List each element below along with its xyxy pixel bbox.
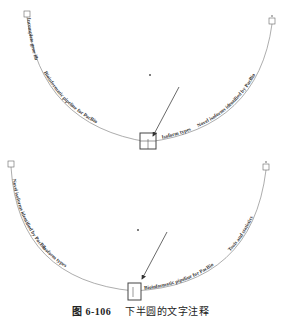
figure-caption: 图 6-106 下半圆的文字注释 — [0, 303, 281, 318]
bottom-center-dot — [137, 229, 139, 231]
top-right-dot — [271, 15, 273, 17]
bottom-pointer-arrow — [142, 232, 167, 279]
top-right-endpoint-marker — [269, 18, 275, 24]
top-label-novel-isoforms: Novel isoforms identified by PacBio — [196, 72, 256, 128]
bottom-selection-box[interactable] — [128, 283, 141, 300]
bottom-semicircle-arc — [11, 167, 266, 291]
top-left-endpoint-marker — [24, 11, 30, 17]
figure-caption-text: 下半圆的文字注释 — [125, 306, 209, 317]
bottom-label-novel-isoforms: Novel isoforms identified by PacBio — [11, 178, 48, 251]
bottom-diagram: Novel isoforms identified by PacBio Isof… — [8, 161, 269, 300]
diagram-canvas: Incomplete gene library Bioinformatic pi… — [0, 0, 281, 323]
top-pointer-arrow — [153, 87, 179, 136]
top-label-bioinformatic-pipeline: Bioinformatic pipeline for PacBio — [43, 70, 99, 125]
top-diagram: Incomplete gene library Bioinformatic pi… — [0, 0, 275, 149]
top-center-dot — [149, 74, 151, 76]
top-label-isoform-types: Isoform types — [161, 125, 192, 139]
bottom-right-dot — [265, 161, 267, 163]
bottom-label-tools-and-statistics: Tools and statistics — [226, 215, 254, 252]
bottom-right-endpoint-marker — [263, 164, 269, 170]
top-semicircle-arc — [27, 17, 272, 142]
figure-number: 图 6-106 — [72, 306, 111, 317]
top-label-incomplete-gene-library: Incomplete gene library — [0, 0, 40, 61]
bottom-label-isoform-types: Isoform types — [41, 244, 68, 268]
bottom-label-bioinformatic-pipeline: Bioinformatic pipeline for PacBio — [144, 261, 215, 291]
bottom-left-endpoint-marker — [8, 161, 14, 167]
